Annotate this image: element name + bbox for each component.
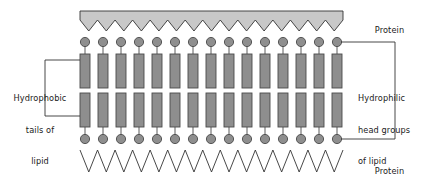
lipid-head-lower — [152, 134, 161, 143]
label-hydrophilic-line-1: Hydrophilic — [358, 93, 428, 104]
lipid-head-lower — [116, 134, 125, 143]
lipid-tail-upper — [80, 54, 90, 88]
lipid-head-lower — [80, 134, 89, 143]
lipid-tail-lower — [278, 93, 288, 127]
lipid-tail-upper — [296, 54, 306, 88]
lipid-tail-upper — [332, 54, 342, 88]
lipid-head-lower — [296, 134, 305, 143]
lipid-head-lower — [98, 134, 107, 143]
lipid-head-upper — [314, 37, 323, 46]
lipid-tail-upper — [278, 54, 288, 88]
lipid-head-lower — [332, 134, 341, 143]
lipid-head-upper — [242, 37, 251, 46]
protein-top-shape — [80, 11, 343, 31]
lipid-tail-lower — [224, 93, 234, 127]
lipid-head-upper — [278, 37, 287, 46]
lipid-column — [314, 37, 324, 143]
lipid-tail-upper — [170, 54, 180, 88]
lipid-tail-upper — [188, 54, 198, 88]
lipid-column — [170, 37, 180, 143]
lipid-tail-lower — [116, 93, 126, 127]
lipid-tail-lower — [206, 93, 216, 127]
lipid-head-lower — [278, 134, 287, 143]
lipid-tail-lower — [188, 93, 198, 127]
lipid-head-upper — [188, 37, 197, 46]
lipid-head-upper — [152, 37, 161, 46]
lipid-head-upper — [170, 37, 179, 46]
lipid-tail-upper — [206, 54, 216, 88]
label-hydrophobic-line-1: Hydrophobic — [2, 93, 78, 104]
lipid-head-lower — [188, 134, 197, 143]
protein-bottom-shape — [80, 150, 343, 172]
lipid-column — [296, 37, 306, 143]
lipid-head-upper — [296, 37, 305, 46]
lipid-column — [98, 37, 108, 143]
lipid-column — [188, 37, 198, 143]
lipid-head-upper — [332, 37, 341, 46]
membrane-diagram: Protein Protein Hydrophobic tails of lip… — [0, 0, 428, 176]
lipid-head-lower — [224, 134, 233, 143]
lipid-tail-upper — [242, 54, 252, 88]
lipid-column — [260, 37, 270, 143]
lipid-column — [206, 37, 216, 143]
lipid-column — [152, 37, 162, 143]
lipid-head-upper — [80, 37, 89, 46]
label-hydrophilic-line-2: head groups — [358, 125, 428, 136]
lipid-column — [80, 37, 90, 143]
lipid-tail-lower — [152, 93, 162, 127]
lipid-tail-lower — [134, 93, 144, 127]
lipid-head-lower — [134, 134, 143, 143]
lipid-tail-upper — [260, 54, 270, 88]
lipid-tail-upper — [98, 54, 108, 88]
lipid-head-lower — [314, 134, 323, 143]
lipid-head-upper — [206, 37, 215, 46]
lipid-head-upper — [260, 37, 269, 46]
lipid-head-upper — [98, 37, 107, 46]
lipid-tail-upper — [314, 54, 324, 88]
lipid-column — [332, 37, 342, 143]
label-hydrophilic-line-3: of lipid — [358, 156, 428, 167]
lipid-column — [116, 37, 126, 143]
lipid-column — [134, 37, 144, 143]
lipid-tail-upper — [134, 54, 144, 88]
lipid-tail-lower — [242, 93, 252, 127]
label-protein-top: Protein — [364, 14, 404, 46]
lipid-head-upper — [116, 37, 125, 46]
lipid-tail-lower — [314, 93, 324, 127]
lipid-tail-lower — [98, 93, 108, 127]
lipid-tail-lower — [80, 93, 90, 127]
lipid-head-lower — [170, 134, 179, 143]
label-hydrophobic-tails: Hydrophobic tails of lipid — [2, 72, 78, 176]
lipid-head-lower — [242, 134, 251, 143]
lipid-head-upper — [134, 37, 143, 46]
lipid-head-lower — [260, 134, 269, 143]
label-hydrophobic-line-2: tails of — [2, 125, 78, 136]
lipid-column — [278, 37, 288, 143]
lipid-tail-upper — [224, 54, 234, 88]
label-protein-top-text: Protein — [375, 25, 404, 35]
lipid-tail-lower — [170, 93, 180, 127]
lipid-column — [242, 37, 252, 143]
label-hydrophilic-heads: Hydrophilic head groups of lipid — [358, 72, 428, 176]
label-hydrophobic-line-3: lipid — [2, 156, 78, 167]
lipid-tail-lower — [332, 93, 342, 127]
lipid-tail-lower — [260, 93, 270, 127]
leader-lines-group — [45, 42, 395, 139]
lipid-tail-lower — [296, 93, 306, 127]
lipid-bilayer-group — [80, 37, 342, 143]
lipid-tail-upper — [116, 54, 126, 88]
lipid-tail-upper — [152, 54, 162, 88]
lipid-head-upper — [224, 37, 233, 46]
lipid-column — [224, 37, 234, 143]
lipid-head-lower — [206, 134, 215, 143]
